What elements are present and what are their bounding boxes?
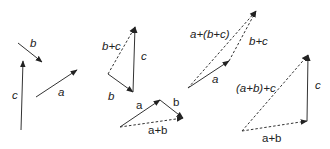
- vector-label: c: [141, 50, 147, 62]
- vector-label: b: [108, 90, 115, 102]
- vector-label: b: [30, 37, 37, 49]
- a-plus-b-triangle-group: aba+b: [120, 96, 183, 136]
- vector-label: a: [58, 86, 64, 98]
- vector-arrow-a-b-c: [188, 11, 256, 88]
- vector-arrow-c: [307, 55, 308, 121]
- ab-plus-c-triangle-group: a+bc(a+b)+c: [236, 55, 321, 144]
- vector-label: (a+b)+c: [236, 82, 276, 94]
- vector-label: b+c: [249, 35, 268, 47]
- b-plus-c-triangle-group: bcb+c: [102, 27, 147, 102]
- vector-arrow-c: [21, 61, 23, 130]
- vector-arrow-a-b: [242, 121, 307, 131]
- vector-layer: bcabcb+caba+bab+ca+(b+c)a+bc(a+b)+c: [12, 11, 321, 144]
- vector-label: a: [212, 73, 218, 85]
- vector-label: c: [12, 89, 18, 101]
- vector-label: a: [136, 99, 143, 111]
- vector-arrow-c: [133, 27, 135, 92]
- vector-label: c: [315, 79, 321, 91]
- vector-arrow-a: [36, 70, 77, 97]
- a-plus-bc-triangle-group: ab+ca+(b+c): [188, 11, 268, 88]
- vector-arrow-a: [188, 61, 229, 88]
- vector-label: a+b: [262, 132, 282, 144]
- vector-label: a+b: [148, 124, 168, 136]
- vector-arrow-b: [160, 100, 183, 118]
- vector-label: b+c: [102, 40, 121, 52]
- vector-label: b: [173, 96, 179, 108]
- individual-vectors-group: bca: [12, 37, 77, 130]
- vector-diagram: bcabcb+caba+bab+ca+(b+c)a+bc(a+b)+c: [0, 0, 330, 149]
- vector-label: a+(b+c): [190, 28, 230, 40]
